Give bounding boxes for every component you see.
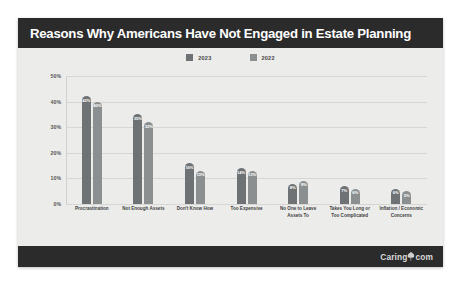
legend-label: 2022 — [262, 55, 275, 61]
bar-2022[interactable]: 6% — [351, 189, 360, 204]
bar-2023[interactable]: 7% — [340, 186, 349, 204]
y-axis-tick: 30% — [51, 124, 61, 130]
y-axis-tick: 20% — [51, 150, 61, 156]
y-axis-tick: 10% — [51, 175, 61, 181]
bar-2023[interactable]: 16% — [185, 163, 194, 204]
bar-value-label: 5% — [404, 193, 410, 198]
bar-group: 35%32% — [118, 76, 170, 204]
bar-group: 8%9% — [272, 76, 324, 204]
bar-group: 14%13% — [221, 76, 273, 204]
bar-group: 6%5% — [375, 76, 427, 204]
watermark-suffix: com — [415, 252, 433, 262]
bar-value-label: 13% — [196, 172, 204, 177]
bar-value-label: 6% — [393, 190, 399, 195]
chart-plot-area: 20232022 0%10%20%30%40%50% 42%40%35%32%1… — [18, 48, 443, 246]
bar-value-label: 14% — [237, 170, 245, 175]
y-axis-tick: 50% — [51, 73, 61, 79]
bar-value-label: 13% — [248, 172, 256, 177]
chart-legend: 20232022 — [18, 54, 443, 61]
chart-bars: 42%40%35%32%16%13%14%13%8%9%7%6%6%5% — [66, 76, 427, 204]
grid-line — [66, 204, 427, 205]
bar-2022[interactable]: 13% — [248, 171, 257, 204]
x-axis-label: Don't Know How — [169, 206, 221, 219]
legend-item-2022[interactable]: 2022 — [250, 54, 275, 61]
chart-card: Reasons Why Americans Have Not Engaged i… — [18, 18, 443, 267]
bar-2022[interactable]: 13% — [196, 171, 205, 204]
bar-2022[interactable]: 40% — [93, 102, 102, 204]
bar-2023[interactable]: 8% — [288, 184, 297, 204]
bar-2023[interactable]: 6% — [391, 189, 400, 204]
legend-label: 2023 — [198, 55, 211, 61]
watermark-text: Caring — [380, 252, 407, 262]
x-axis-label: Inflation / Economic Concerns — [375, 206, 427, 219]
bar-group: 7%6% — [324, 76, 376, 204]
x-axis-label: Too Expensive — [221, 206, 273, 219]
bar-2023[interactable]: 35% — [133, 114, 142, 204]
x-axis-labels: ProcrastinationNot Enough AssetsDon't Kn… — [66, 206, 427, 219]
bar-2022[interactable]: 5% — [402, 191, 411, 204]
x-axis-label: Takes You Long or Too Complicated — [324, 206, 376, 219]
watermark: Caring com — [380, 252, 433, 262]
bar-value-label: 8% — [290, 185, 296, 190]
legend-item-2023[interactable]: 2023 — [186, 54, 211, 61]
legend-swatch-icon — [250, 54, 257, 61]
y-axis-tick: 0% — [54, 201, 62, 207]
x-axis-label: Procrastination — [66, 206, 118, 219]
bar-group: 16%13% — [169, 76, 221, 204]
bar-value-label: 7% — [341, 188, 347, 193]
x-axis-label: Not Enough Assets — [118, 206, 170, 219]
legend-swatch-icon — [186, 54, 193, 61]
caring-leaf-icon — [407, 252, 415, 261]
bar-2023[interactable]: 14% — [237, 168, 246, 204]
bar-2023[interactable]: 42% — [82, 96, 91, 204]
chart-title-bar: Reasons Why Americans Have Not Engaged i… — [18, 18, 443, 48]
bar-2022[interactable]: 9% — [299, 181, 308, 204]
bar-value-label: 16% — [185, 165, 193, 170]
bar-2022[interactable]: 32% — [144, 122, 153, 204]
bar-value-label: 35% — [134, 116, 142, 121]
page-title: Reasons Why Americans Have Not Engaged i… — [30, 26, 411, 41]
bar-value-label: 6% — [352, 190, 358, 195]
bar-group: 42%40% — [66, 76, 118, 204]
x-axis-label: No One to Leave Assets To — [272, 206, 324, 219]
y-axis-tick: 40% — [51, 99, 61, 105]
chart-footer-bar: Caring com — [18, 246, 443, 267]
bar-value-label: 9% — [301, 182, 307, 187]
bar-value-label: 32% — [145, 124, 153, 129]
bar-value-label: 42% — [82, 98, 90, 103]
bar-value-label: 40% — [93, 103, 101, 108]
